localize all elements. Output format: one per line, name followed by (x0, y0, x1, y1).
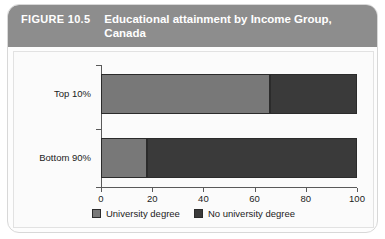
x-axis-tick-label: 0 (98, 193, 103, 204)
bar-segment (270, 74, 357, 114)
y-axis-tick (96, 65, 101, 66)
chart-plot-area: 020406080100 Top 10%Bottom 90% Universit… (14, 52, 373, 227)
bar-segment (147, 138, 357, 178)
legend-label: No university degree (208, 208, 295, 219)
y-axis-tick (96, 129, 101, 130)
x-axis-tick (306, 188, 307, 192)
x-axis-tick (152, 188, 153, 192)
x-axis-tick (203, 188, 204, 192)
x-axis-tick (101, 188, 102, 192)
x-axis-tick-label: 100 (349, 193, 365, 204)
figure-card: FIGURE 10.5 Educational attainment by In… (7, 4, 378, 233)
legend-item: No university degree (194, 208, 295, 219)
figure-title: Educational attainment by Income Group, … (104, 12, 332, 40)
legend-item: University degree (92, 208, 180, 219)
bar-row (14, 74, 373, 114)
y-axis-tick (96, 187, 101, 188)
x-axis-line (101, 187, 357, 188)
legend-swatch (92, 209, 101, 218)
legend-label: University degree (106, 208, 180, 219)
x-axis-tick-label: 80 (301, 193, 312, 204)
x-axis-tick-label: 20 (147, 193, 158, 204)
bar-row (14, 138, 373, 178)
chart-legend: University degreeNo university degree (14, 208, 373, 219)
bar-segment (101, 74, 270, 114)
figure-number-label: FIGURE 10.5 (21, 12, 90, 25)
legend-swatch (194, 209, 203, 218)
figure-header: FIGURE 10.5 Educational attainment by In… (8, 5, 378, 47)
x-axis-tick (357, 188, 358, 192)
chart-plot-frame: 020406080100 Top 10%Bottom 90% Universit… (13, 51, 374, 228)
x-axis-tick-label: 60 (249, 193, 260, 204)
bar-segment (101, 138, 147, 178)
x-axis-tick (255, 188, 256, 192)
x-axis-tick-label: 40 (198, 193, 209, 204)
